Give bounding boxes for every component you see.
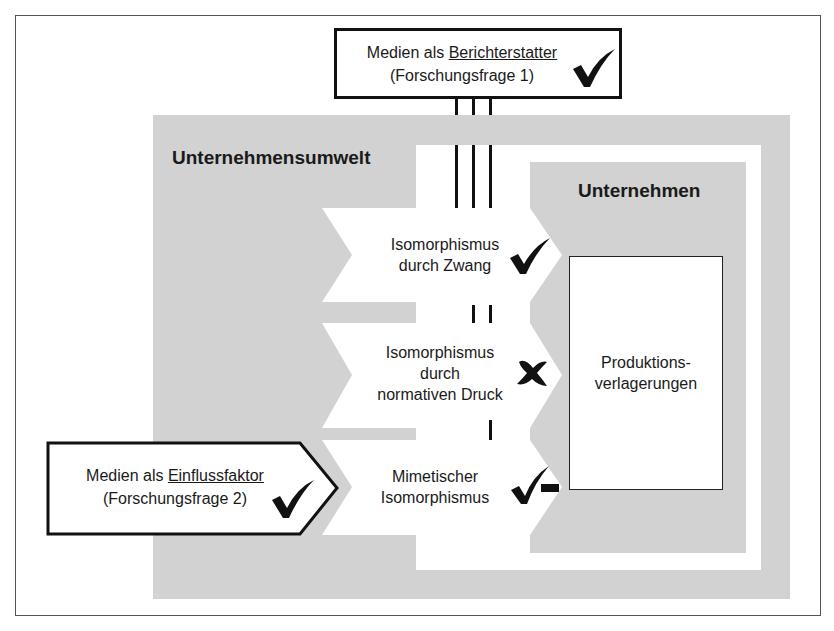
box-keyword: Einflussfaktor xyxy=(168,467,264,484)
research-question-2-text: Medien als Einflussfaktor (Forschungsfra… xyxy=(60,464,290,510)
box-prefix: Medien als xyxy=(86,467,168,484)
box-subtitle: (Forschungsfrage 2) xyxy=(60,487,290,510)
research-question-2-shape xyxy=(0,0,834,631)
check-icon xyxy=(270,478,316,520)
